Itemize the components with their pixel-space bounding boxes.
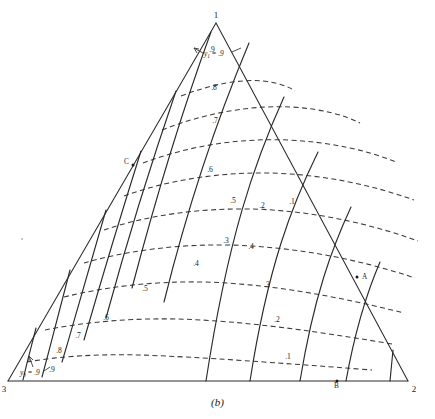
figure-caption: (b): [0, 396, 435, 408]
solid-contour-label-1: .8: [211, 83, 217, 92]
point-C-label: C: [124, 158, 129, 166]
dashed-contour-1: [181, 81, 295, 96]
solid-contour-family: [23, 32, 380, 381]
y1-arrow-line-right: [232, 48, 241, 52]
vertex-label-top: 1: [214, 10, 219, 20]
solid-contour-label-7: .2: [274, 315, 280, 324]
point-C-dot: [132, 164, 135, 167]
dashed-contour-9: [27, 355, 372, 370]
solid-contour-3: [250, 152, 318, 381]
dashed-contour-family: [27, 81, 418, 370]
solid-contour-labels: .9.8.7.6.5.4.3.2.1: [207, 45, 291, 361]
dashed-contour-2: [162, 107, 360, 130]
ternary-diagram-figure: y1= .9 y3= .9 1 3 2 A B C: [0, 0, 435, 419]
dashed-contour-8: [45, 319, 392, 344]
solid-contour-label-0: .9: [209, 45, 215, 54]
vertex-label-bottom-left: 3: [2, 384, 7, 394]
dashed-contour-label-4: .5: [142, 284, 148, 293]
solid-contour-label-3: .6: [207, 165, 213, 174]
tick-stub-right: [390, 350, 393, 381]
dashed-contour-label-0: .9: [49, 365, 55, 374]
paper-speck: [21, 238, 23, 240]
bottom-tick-stubs: [390, 350, 393, 381]
dashed-contour-4: [124, 173, 414, 200]
point-B-label: B: [334, 382, 339, 390]
solid-contour-edge-a: [42, 270, 70, 377]
solid-contour-8: [84, 151, 141, 340]
vertex-label-bottom-right: 2: [412, 384, 417, 394]
solid-contour-2: [300, 207, 351, 381]
point-A-label: A: [362, 273, 368, 281]
dashed-contour-label-8: .1: [289, 197, 295, 206]
dashed-contour-label-2: .7: [75, 331, 81, 340]
dashed-contour-label-5: .4: [193, 259, 199, 268]
solid-contour-6: [132, 32, 211, 288]
ternary-plot-svg: y1= .9 y3= .9 1 3 2 A B C: [0, 0, 435, 419]
solid-contour-label-2: .7: [212, 116, 218, 125]
triangle-outline: [8, 23, 408, 381]
marked-point-B: B: [334, 380, 339, 391]
solid-contour-label-4: .5: [230, 196, 236, 205]
solid-contour-4: [206, 97, 284, 381]
point-A-dot: [356, 276, 359, 279]
marked-point-C: C: [124, 158, 135, 167]
marked-point-A: A: [356, 273, 369, 281]
dashed-contour-3: [143, 140, 396, 163]
y3-annotation-text: y3= .9: [19, 368, 40, 378]
dashed-contour-5: [104, 209, 418, 241]
dashed-contour-label-1: .8: [56, 346, 62, 355]
dashed-contour-label-7: .2: [259, 201, 265, 210]
solid-contour-label-8: .1: [285, 352, 291, 361]
solid-contour-label-5: .4: [248, 242, 254, 251]
dashed-contour-label-6: .3: [223, 236, 229, 245]
solid-contour-label-6: .3: [264, 280, 270, 289]
dashed-contour-label-3: .6: [103, 313, 109, 322]
edge-left: [8, 23, 216, 381]
